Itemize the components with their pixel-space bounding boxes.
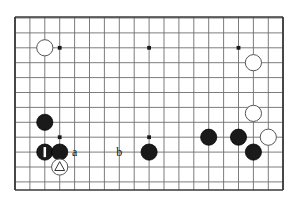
point-label-b: b	[116, 146, 122, 158]
point-label-a: a	[72, 146, 77, 158]
stone-disc	[37, 114, 53, 130]
star-point	[237, 46, 241, 50]
black-stone[interactable]	[37, 144, 53, 160]
go-diagram-figure: ab	[0, 0, 297, 203]
stone-disc	[245, 144, 261, 160]
stone-disc	[37, 40, 53, 56]
move-number-1-marker	[44, 147, 47, 157]
black-stone[interactable]	[201, 129, 217, 145]
stone-disc	[201, 129, 217, 145]
stone-disc	[52, 144, 68, 160]
star-point	[58, 135, 62, 139]
stone-disc	[141, 144, 157, 160]
stone-disc	[245, 55, 261, 71]
black-stone[interactable]	[52, 144, 68, 160]
black-stone[interactable]	[245, 144, 261, 160]
black-stone[interactable]	[230, 129, 246, 145]
star-point	[147, 46, 151, 50]
star-point	[58, 46, 62, 50]
go-board[interactable]	[0, 0, 297, 203]
black-stone[interactable]	[141, 144, 157, 160]
stone-disc	[230, 129, 246, 145]
black-stone[interactable]	[37, 114, 53, 130]
stone-disc	[245, 105, 261, 121]
white-stone[interactable]	[245, 55, 261, 71]
white-stone[interactable]	[260, 129, 276, 145]
white-stone[interactable]	[37, 40, 53, 56]
white-stone[interactable]	[52, 159, 68, 175]
white-stone[interactable]	[245, 105, 261, 121]
stone-disc	[260, 129, 276, 145]
star-point	[147, 135, 151, 139]
